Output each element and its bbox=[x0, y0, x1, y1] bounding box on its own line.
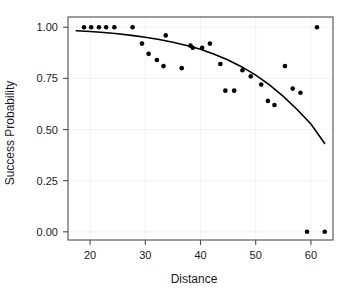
data-point bbox=[266, 99, 271, 104]
data-point bbox=[140, 41, 145, 46]
y-tick-label: 1.00 bbox=[37, 21, 58, 33]
data-point bbox=[290, 86, 295, 91]
y-tick-label: 0.75 bbox=[37, 72, 58, 84]
data-point bbox=[322, 230, 327, 235]
data-point bbox=[298, 90, 303, 95]
data-point bbox=[161, 64, 166, 69]
data-point bbox=[218, 62, 223, 67]
data-point bbox=[283, 64, 288, 69]
data-point bbox=[82, 25, 87, 30]
data-point bbox=[200, 45, 205, 50]
data-point bbox=[146, 52, 151, 57]
data-point bbox=[248, 74, 253, 79]
data-point bbox=[89, 25, 94, 30]
data-point bbox=[223, 88, 228, 93]
x-tick-label: 30 bbox=[139, 249, 151, 261]
data-point bbox=[315, 25, 320, 30]
data-point bbox=[104, 25, 109, 30]
y-tick-label: 0.25 bbox=[37, 175, 58, 187]
chart-figure: 2030405060 0.000.250.500.751.00 Distance… bbox=[0, 0, 348, 288]
data-point bbox=[259, 82, 264, 87]
x-tick-label: 50 bbox=[250, 249, 262, 261]
data-point bbox=[240, 68, 245, 73]
data-point bbox=[155, 58, 160, 63]
data-point bbox=[190, 45, 195, 50]
data-point bbox=[272, 103, 277, 108]
x-tick-label: 60 bbox=[305, 249, 317, 261]
y-tick-label: 0.00 bbox=[37, 226, 58, 238]
x-axis-title: Distance bbox=[171, 272, 218, 286]
data-point bbox=[208, 41, 213, 46]
x-tick-label: 40 bbox=[194, 249, 206, 261]
data-point bbox=[112, 25, 117, 30]
data-point bbox=[232, 88, 237, 93]
y-axis-title: Success Probability bbox=[3, 81, 17, 186]
x-tick-label: 20 bbox=[84, 249, 96, 261]
data-point bbox=[97, 25, 102, 30]
data-point bbox=[163, 33, 168, 38]
data-point bbox=[179, 66, 184, 71]
y-tick-label: 0.50 bbox=[37, 124, 58, 136]
data-point bbox=[305, 230, 310, 235]
data-point bbox=[130, 25, 135, 30]
scatter-plot-with-fitted-curve: 2030405060 0.000.250.500.751.00 Distance… bbox=[0, 0, 348, 288]
